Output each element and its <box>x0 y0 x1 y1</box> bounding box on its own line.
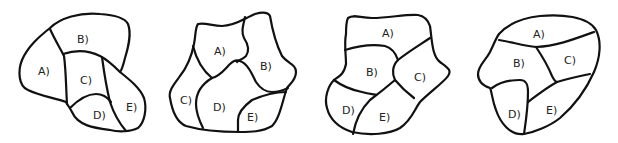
figure-3-divider-bc <box>393 60 414 98</box>
figure-1-divider-ab <box>50 29 67 104</box>
figure-3-divider-de <box>353 80 395 134</box>
figure-4-divider-de <box>528 82 557 102</box>
figure-3-divider-ac <box>398 38 430 60</box>
figure-3-label-a: A) <box>382 27 394 40</box>
figure-4-divider-ce <box>557 74 590 82</box>
figure-2-divider-ab <box>237 17 248 62</box>
figure-3-divider-bd <box>334 80 376 95</box>
figure-1-divider-cd <box>70 94 111 108</box>
figure-1-label-c: C) <box>80 74 92 87</box>
figure-3-label-c: C) <box>414 71 426 84</box>
figure-4-label-a: A) <box>533 28 545 41</box>
diagram-canvas: A) B) C) D) E) A) B) C) D) E) A) B) C) D… <box>0 0 618 143</box>
figure-1-label-a: A) <box>38 65 50 78</box>
figure-4-divider-bd <box>492 80 528 134</box>
figure-1-label-e: E) <box>126 101 137 114</box>
figure-3-divider-ab <box>345 45 398 60</box>
figure-1-divider-bc <box>63 51 120 72</box>
figure-4-label-d: D) <box>508 108 521 121</box>
figure-4-label-c: C) <box>564 54 576 67</box>
figure-4-label-e: E) <box>546 104 557 117</box>
figure-3-label-b: B) <box>366 66 378 79</box>
figure-2 <box>170 13 296 132</box>
figure-1-label-d: D) <box>93 109 106 122</box>
figure-4-divider-bc <box>536 47 557 82</box>
figure-2-divider-ad <box>212 60 240 78</box>
figure-4-label-b: B) <box>513 57 525 70</box>
figure-3-label-d: D) <box>342 104 355 117</box>
figure-2-divider-ac <box>193 46 212 78</box>
figure-3-label-e: E) <box>379 111 390 124</box>
figure-2-label-c: C) <box>180 94 192 107</box>
figure-1-label-b: B) <box>77 33 89 46</box>
figure-2-outline <box>170 13 296 132</box>
figure-4-divider-ab <box>499 32 594 47</box>
figure-2-label-e: E) <box>247 111 258 124</box>
figure-2-label-d: D) <box>213 101 226 114</box>
figure-2-divider-cd <box>196 78 212 128</box>
figure-2-label-b: B) <box>260 60 272 73</box>
figure-2-label-a: A) <box>214 45 226 58</box>
